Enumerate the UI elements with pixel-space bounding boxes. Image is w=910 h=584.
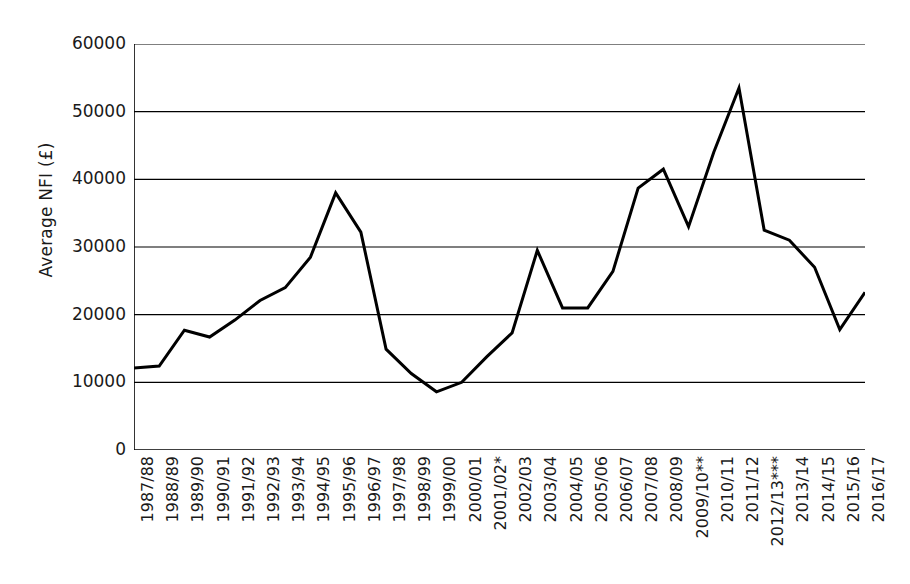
x-tick-label: 1994/95: [316, 456, 332, 522]
y-tick-label: 60000: [40, 35, 126, 52]
y-tick-label: 0: [40, 441, 126, 458]
x-tick-label: 2013/14: [795, 456, 811, 522]
x-tick-label: 2005/06: [594, 456, 610, 522]
x-tick-label: 2006/07: [619, 456, 635, 522]
x-tick-label: 2001/02*: [493, 456, 509, 530]
x-tick-label: 2012/13***: [770, 456, 786, 546]
x-tick-label: 1987/88: [140, 456, 156, 522]
x-tick-label: 1999/00: [442, 456, 458, 522]
x-tick-label: 2015/16: [846, 456, 862, 522]
x-tick-label: 2004/05: [569, 456, 585, 522]
x-tick-label: 2008/09: [669, 456, 685, 522]
x-tick-label: 1991/92: [241, 456, 257, 522]
y-tick-label: 50000: [40, 103, 126, 120]
x-tick-label: 1993/94: [291, 456, 307, 522]
x-tick-label: 1997/98: [392, 456, 408, 522]
x-tick-label: 2009/10**: [695, 456, 711, 538]
gridlines: [134, 44, 865, 382]
x-tick-label: 2011/12: [745, 456, 761, 522]
x-tick-label: 1996/97: [367, 456, 383, 522]
y-tick-label: 40000: [40, 170, 126, 187]
x-tick-label: 2003/04: [543, 456, 559, 522]
x-tick-label: 1995/96: [342, 456, 358, 522]
x-tick-label: 2014/15: [821, 456, 837, 522]
x-tick-label: 2007/08: [644, 456, 660, 522]
data-series-line: [134, 88, 865, 392]
line-chart: Average NFI (£) 010000200003000040000500…: [0, 0, 910, 584]
y-tick-label: 10000: [40, 373, 126, 390]
x-axis-tick-labels: 1987/881988/891989/901990/911991/921992/…: [134, 450, 865, 584]
x-tick-label: 1998/99: [417, 456, 433, 522]
x-tick-label: 1992/93: [266, 456, 282, 522]
x-tick-label: 1988/89: [165, 456, 181, 522]
x-tick-label: 2016/17: [871, 456, 887, 522]
y-tick-label: 30000: [40, 238, 126, 255]
x-tick-label: 1989/90: [190, 456, 206, 522]
x-tick-label: 2002/03: [518, 456, 534, 522]
x-tick-label: 1990/91: [216, 456, 232, 522]
y-tick-label: 20000: [40, 306, 126, 323]
x-tick-label: 2000/01: [468, 456, 484, 522]
plot-area: [134, 44, 865, 450]
plot-svg: [134, 44, 865, 450]
x-tick-label: 2010/11: [720, 456, 736, 522]
y-axis-tick-labels: 0100002000030000400005000060000: [40, 0, 126, 584]
